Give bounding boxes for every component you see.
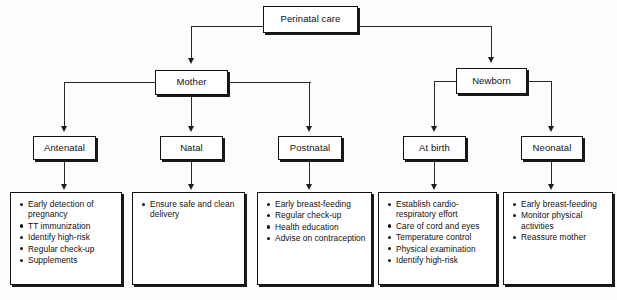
arrowhead-to-neonatal-details	[548, 184, 554, 190]
arrowhead-to-at-birth	[431, 126, 437, 132]
detail-box-neonatal[interactable]: Early breast-feeding Monitor physical ac…	[503, 192, 613, 285]
detail-box-at-birth[interactable]: Establish cardio-respiratory effort Care…	[378, 192, 497, 285]
connector-newborn-to-neonatal-horizontal	[526, 81, 552, 82]
detail-box-postnatal[interactable]: Early breast-feeding Regular check-up He…	[257, 192, 372, 285]
detail-box-antenatal[interactable]: Early detection of pregnancy TT immuniza…	[10, 192, 122, 285]
detail-list-antenatal: Early detection of pregnancy TT immuniza…	[15, 199, 117, 265]
node-newborn-label: Newborn	[472, 76, 511, 86]
list-item: Identify high-risk	[28, 232, 117, 242]
arrowhead-to-natal	[188, 126, 194, 132]
node-postnatal[interactable]: Postnatal	[278, 136, 342, 160]
list-item: Reassure mother	[521, 232, 608, 242]
connector-mother-to-natal-vertical	[191, 94, 192, 129]
connector-natal-to-details	[191, 159, 192, 187]
node-postnatal-label: Postnatal	[290, 143, 331, 153]
list-item: Identify high-risk	[396, 255, 492, 265]
detail-list-postnatal: Early breast-feeding Regular check-up He…	[262, 199, 367, 244]
arrowhead-to-at-birth-details	[431, 184, 437, 190]
connector-postnatal-to-details	[309, 159, 310, 187]
connector-root-to-newborn-vertical	[491, 26, 492, 60]
detail-box-natal[interactable]: Ensure safe and clean delivery	[132, 192, 245, 285]
connector-at-birth-to-details	[434, 159, 435, 187]
list-item: Early breast-feeding	[521, 199, 608, 209]
arrowhead-to-postnatal	[306, 126, 312, 132]
node-neonatal[interactable]: Neonatal	[521, 136, 583, 160]
node-mother[interactable]: Mother	[155, 70, 228, 95]
list-item: Advise on contraception	[275, 233, 367, 243]
node-at-birth-label: At birth	[419, 143, 450, 153]
node-perinatal-care-label: Perinatal care	[280, 14, 340, 24]
list-item: Early breast-feeding	[275, 199, 367, 209]
list-item: Establish cardio-respiratory effort	[396, 199, 492, 220]
connector-newborn-to-at-birth-vertical	[434, 81, 435, 129]
list-item: Supplements	[28, 255, 117, 265]
connector-mother-to-antenatal-horizontal	[64, 82, 156, 83]
arrowhead-to-natal-details	[188, 184, 194, 190]
connector-root-to-mother-horizontal	[191, 26, 264, 27]
node-at-birth[interactable]: At birth	[403, 136, 466, 160]
node-antenatal-label: Antenatal	[44, 143, 85, 153]
node-natal-label: Natal	[180, 143, 203, 153]
arrowhead-to-newborn	[488, 57, 494, 63]
arrowhead-to-antenatal	[61, 126, 67, 132]
connector-mother-to-postnatal-horizontal	[227, 82, 311, 83]
list-item: Ensure safe and clean delivery	[150, 199, 240, 220]
arrowhead-to-postnatal-details	[306, 184, 312, 190]
node-antenatal[interactable]: Antenatal	[33, 136, 96, 160]
connector-mother-to-postnatal-vertical	[309, 82, 310, 129]
perinatal-care-flowchart: Perinatal care Mother Newborn Antenatal …	[0, 0, 617, 300]
detail-list-at-birth: Establish cardio-respiratory effort Care…	[383, 199, 492, 265]
list-item: Monitor physical activities	[521, 210, 608, 231]
list-item: TT immunization	[28, 221, 117, 231]
arrowhead-to-mother	[188, 58, 194, 64]
list-item: Physical examination	[396, 244, 492, 254]
connector-newborn-to-neonatal-vertical	[551, 81, 552, 129]
list-item: Temperature control	[396, 232, 492, 242]
list-item: Regular check-up	[28, 244, 117, 254]
list-item: Health education	[275, 222, 367, 232]
node-mother-label: Mother	[176, 77, 206, 87]
connector-antenatal-to-details	[64, 159, 65, 187]
node-newborn[interactable]: Newborn	[456, 68, 527, 94]
node-neonatal-label: Neonatal	[533, 143, 572, 153]
list-item: Regular check-up	[275, 210, 367, 220]
connector-mother-to-antenatal-vertical	[64, 82, 65, 129]
arrowhead-to-neonatal	[548, 126, 554, 132]
arrowhead-to-antenatal-details	[61, 184, 67, 190]
connector-root-to-mother-vertical	[191, 26, 192, 61]
connector-newborn-to-at-birth-horizontal	[434, 81, 457, 82]
node-natal[interactable]: Natal	[160, 136, 223, 160]
detail-list-natal: Ensure safe and clean delivery	[137, 199, 240, 220]
list-item: Early detection of pregnancy	[28, 199, 117, 220]
connector-neonatal-to-details	[551, 159, 552, 187]
list-item: Care of cord and eyes	[396, 221, 492, 231]
connector-root-to-newborn-horizontal	[357, 26, 492, 27]
detail-list-neonatal: Early breast-feeding Monitor physical ac…	[508, 199, 608, 243]
node-perinatal-care[interactable]: Perinatal care	[263, 6, 358, 33]
